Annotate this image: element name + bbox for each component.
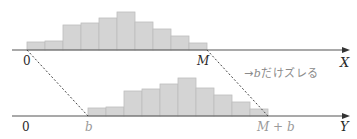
shift-diagram: 0 M X →bだけズレる 0 b M + b Y bbox=[0, 0, 357, 139]
histogram-bar bbox=[124, 91, 142, 116]
shift-annotation: →bだけズレる bbox=[244, 64, 319, 80]
histogram-bar bbox=[63, 25, 81, 50]
histogram-bar bbox=[232, 102, 250, 116]
histogram-bar bbox=[81, 23, 99, 50]
x-axis-label: X bbox=[340, 57, 349, 69]
shift-line-left bbox=[27, 50, 88, 116]
histogram-bar bbox=[153, 29, 171, 50]
bottom-b-label: b bbox=[85, 121, 93, 133]
histogram-bar bbox=[135, 22, 153, 50]
top-histogram bbox=[27, 12, 207, 50]
histogram-bar bbox=[178, 78, 196, 116]
histogram-bar bbox=[189, 43, 207, 50]
histogram-bar bbox=[160, 84, 178, 116]
y-axis-label: Y bbox=[340, 121, 349, 133]
right-arrow-icon: → bbox=[244, 67, 254, 80]
histogram-bar bbox=[171, 36, 189, 50]
histogram-bar bbox=[117, 12, 135, 50]
bottom-m-plus-b-label: M + b bbox=[257, 121, 295, 133]
histogram-bar bbox=[99, 18, 117, 50]
bottom-origin-label: 0 bbox=[22, 121, 30, 133]
histogram-bar bbox=[214, 95, 232, 116]
histogram-bar bbox=[142, 89, 160, 116]
x-axis-arrow-icon bbox=[342, 47, 350, 53]
histogram-bar bbox=[27, 42, 45, 50]
histogram-bar bbox=[106, 107, 124, 116]
histogram-bar bbox=[88, 108, 106, 116]
histogram-bar bbox=[45, 41, 63, 50]
histogram-bar bbox=[196, 88, 214, 116]
shift-text: だけズレる bbox=[261, 67, 319, 80]
top-m-label: M bbox=[197, 55, 209, 67]
bottom-histogram bbox=[88, 78, 268, 116]
top-origin-label: 0 bbox=[23, 55, 31, 67]
